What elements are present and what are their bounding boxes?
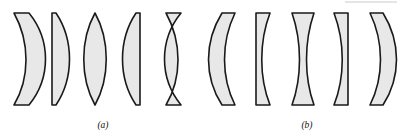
lens-positive-meniscus (14, 13, 46, 105)
lens-group-b (209, 13, 397, 105)
lens-figure: (a) (b) (0, 0, 410, 136)
caption-group-a: (a) (97, 120, 108, 131)
lens-convex-plano (123, 13, 141, 105)
lens-biconvex (84, 13, 107, 105)
caption-group-b: (b) (301, 120, 312, 131)
lens-plano-convex (52, 13, 70, 105)
lens-positive-meniscus-reversed (165, 13, 182, 105)
lens-plano-concave (256, 13, 270, 105)
lens-group-a (14, 13, 181, 105)
lens-diagram-canvas: (a) (b) (0, 0, 410, 136)
lens-concave-plano (334, 13, 348, 105)
scan-artifact-speck (345, 1, 397, 3)
lens-negative-meniscus (209, 13, 236, 105)
lens-negative-meniscus-reversed (370, 13, 397, 105)
lens-biconcave (292, 13, 314, 105)
